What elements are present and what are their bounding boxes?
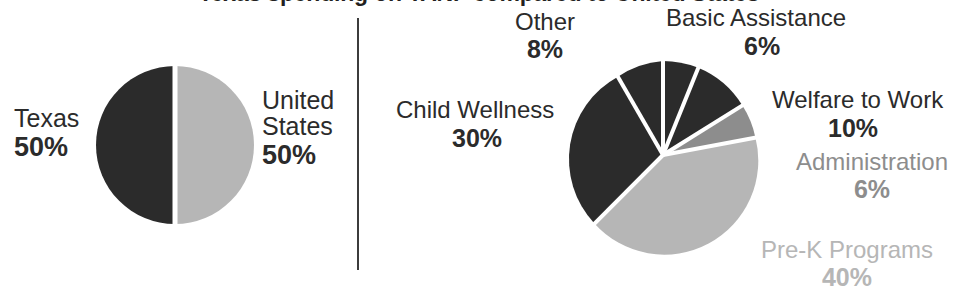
vertical-divider bbox=[357, 18, 359, 270]
right-pie-chart bbox=[568, 60, 758, 250]
label-welfare-to-work-pct: 10% bbox=[828, 116, 943, 142]
label-texas: Texas 50% bbox=[14, 106, 79, 162]
label-child-wellness-pct: 30% bbox=[452, 126, 554, 152]
left-pie-chart bbox=[95, 65, 255, 225]
label-other: Other 8% bbox=[502, 10, 588, 62]
label-united-states-pct: 50% bbox=[262, 142, 334, 170]
label-child-wellness: Child Wellness 30% bbox=[396, 98, 554, 151]
label-administration: Administration 6% bbox=[786, 150, 958, 202]
label-united-states: United States 50% bbox=[262, 88, 334, 169]
label-basic-assistance-pct: 6% bbox=[744, 34, 846, 60]
pie-slice-texas bbox=[96, 66, 175, 224]
label-prek-programs: Pre-K Programs 40% bbox=[736, 238, 958, 290]
label-other-pct: 8% bbox=[502, 37, 588, 63]
label-child-wellness-name: Child Wellness bbox=[396, 98, 554, 123]
label-united-states-line1: United bbox=[262, 88, 334, 114]
label-united-states-line2: States bbox=[262, 114, 334, 140]
pie-slice-united-states bbox=[175, 66, 254, 224]
label-texas-name: Texas bbox=[14, 106, 79, 132]
label-administration-pct: 6% bbox=[786, 177, 958, 203]
label-prek-programs-name: Pre-K Programs bbox=[736, 238, 958, 263]
label-administration-name: Administration bbox=[786, 150, 958, 175]
label-prek-programs-pct: 40% bbox=[736, 265, 958, 291]
label-other-name: Other bbox=[502, 10, 588, 35]
chart-canvas: Texas spending on TANF compared to Unite… bbox=[0, 0, 958, 307]
label-welfare-to-work-name: Welfare to Work bbox=[772, 88, 943, 113]
pie-slice-gap bbox=[173, 65, 178, 225]
label-basic-assistance-name: Basic Assistance bbox=[666, 6, 846, 31]
label-texas-pct: 50% bbox=[14, 134, 79, 162]
label-basic-assistance: Basic Assistance 6% bbox=[666, 6, 846, 59]
label-welfare-to-work: Welfare to Work 10% bbox=[772, 88, 943, 141]
